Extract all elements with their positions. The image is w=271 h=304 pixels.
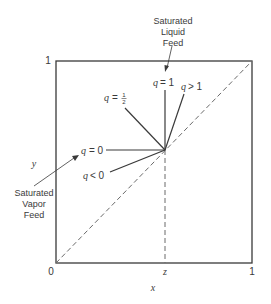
svg-text:= 1: = 1 — [160, 77, 175, 88]
svg-text:< 0: < 0 — [90, 170, 105, 181]
svg-text:q: q — [81, 145, 86, 156]
diagonal-line — [56, 61, 252, 263]
x-tick-0: 0 — [48, 266, 54, 277]
svg-text:q: q — [181, 81, 186, 92]
q-line-greater-1 — [165, 94, 184, 150]
q-less-0-label: q < 0 — [83, 170, 105, 181]
x-tick-1: 1 — [249, 266, 255, 277]
vapor-feed-label-line3: Feed — [24, 210, 45, 220]
svg-text:= 0: = 0 — [89, 145, 104, 156]
svg-text:q: q — [153, 77, 158, 88]
liquid-feed-label-line2: Liquid — [161, 27, 185, 37]
svg-text:1: 1 — [122, 92, 126, 98]
vapor-feed-label-line2: Vapor — [22, 199, 45, 209]
svg-text:=: = — [112, 92, 118, 103]
q-equals-0-label: q = 0 — [81, 145, 104, 156]
y-axis-label: y — [31, 158, 37, 169]
vapor-feed-label-line1: Saturated — [14, 188, 53, 198]
liquid-feed-pointer — [167, 46, 172, 68]
q-equals-1-label: q = 1 — [153, 77, 175, 88]
x-tick-z: z — [162, 266, 167, 277]
liquid-feed-label-line3: Feed — [163, 38, 184, 48]
vapor-feed-arrowhead — [72, 155, 79, 161]
q-equals-half-label: q = 1 2 — [104, 92, 127, 105]
svg-text:> 1: > 1 — [188, 81, 203, 92]
q-line-diagram: Saturated Liquid Feed Saturated Vapor Fe… — [0, 0, 271, 304]
svg-text:q: q — [104, 92, 109, 103]
liquid-feed-arrowhead — [165, 65, 170, 72]
liquid-feed-label-line1: Saturated — [153, 16, 192, 26]
q-line-equals-half — [125, 108, 165, 150]
x-axis-label: x — [150, 282, 156, 293]
q-line-less-0 — [110, 150, 165, 172]
vapor-feed-pointer — [34, 158, 74, 186]
y-tick-1: 1 — [45, 55, 51, 66]
svg-text:q: q — [83, 170, 88, 181]
q-greater-1-label: q > 1 — [181, 81, 203, 92]
svg-text:2: 2 — [122, 99, 126, 105]
